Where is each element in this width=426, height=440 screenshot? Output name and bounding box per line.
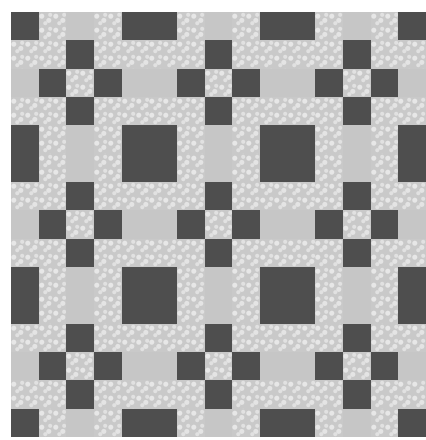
- light-patch: [122, 239, 150, 267]
- dark-patch: [66, 324, 94, 352]
- light-patch: [315, 239, 343, 267]
- light-patch: [260, 69, 288, 97]
- dark-patch: [11, 125, 39, 153]
- dark-patch: [11, 409, 39, 437]
- light-patch: [177, 267, 205, 295]
- light-patch: [94, 97, 122, 125]
- dark-patch: [315, 69, 343, 97]
- dark-patch: [343, 239, 371, 267]
- dark-patch: [205, 182, 233, 210]
- dark-patch: [398, 295, 426, 323]
- light-patch: [343, 352, 371, 380]
- dark-patch: [398, 125, 426, 153]
- light-patch: [66, 409, 94, 437]
- dark-patch: [205, 380, 233, 408]
- light-patch: [11, 239, 39, 267]
- dark-patch: [149, 295, 177, 323]
- light-patch: [149, 97, 177, 125]
- light-patch: [260, 182, 288, 210]
- light-patch: [371, 295, 399, 323]
- light-patch: [66, 210, 94, 238]
- dark-patch: [288, 125, 316, 153]
- dark-patch: [232, 352, 260, 380]
- light-patch: [149, 352, 177, 380]
- light-patch: [39, 239, 67, 267]
- light-patch: [398, 40, 426, 68]
- light-patch: [11, 69, 39, 97]
- dark-patch: [371, 69, 399, 97]
- light-patch: [398, 97, 426, 125]
- light-patch: [260, 324, 288, 352]
- light-patch: [232, 409, 260, 437]
- light-patch: [232, 182, 260, 210]
- dark-patch: [177, 210, 205, 238]
- light-patch: [39, 380, 67, 408]
- light-patch: [177, 40, 205, 68]
- dark-patch: [398, 154, 426, 182]
- light-patch: [66, 352, 94, 380]
- light-patch: [149, 210, 177, 238]
- light-patch: [232, 12, 260, 40]
- light-patch: [122, 380, 150, 408]
- light-patch: [94, 295, 122, 323]
- dark-patch: [343, 40, 371, 68]
- light-patch: [149, 380, 177, 408]
- light-patch: [39, 409, 67, 437]
- dark-patch: [288, 154, 316, 182]
- light-patch: [315, 154, 343, 182]
- dark-patch: [122, 267, 150, 295]
- dark-patch: [260, 267, 288, 295]
- light-patch: [39, 12, 67, 40]
- dark-patch: [149, 267, 177, 295]
- light-patch: [122, 40, 150, 68]
- light-patch: [39, 324, 67, 352]
- light-patch: [232, 324, 260, 352]
- light-patch: [315, 295, 343, 323]
- dark-patch: [66, 40, 94, 68]
- dark-patch: [288, 409, 316, 437]
- light-patch: [398, 380, 426, 408]
- light-patch: [315, 182, 343, 210]
- light-patch: [371, 182, 399, 210]
- light-patch: [177, 409, 205, 437]
- light-patch: [343, 295, 371, 323]
- light-patch: [371, 97, 399, 125]
- light-patch: [260, 380, 288, 408]
- light-patch: [371, 40, 399, 68]
- dark-patch: [177, 352, 205, 380]
- light-patch: [122, 182, 150, 210]
- light-patch: [39, 182, 67, 210]
- dark-patch: [94, 69, 122, 97]
- light-patch: [11, 40, 39, 68]
- dark-patch: [122, 125, 150, 153]
- light-patch: [315, 97, 343, 125]
- light-patch: [11, 380, 39, 408]
- dark-patch: [122, 154, 150, 182]
- dark-patch: [315, 210, 343, 238]
- light-patch: [343, 210, 371, 238]
- light-patch: [149, 324, 177, 352]
- dark-patch: [149, 154, 177, 182]
- light-patch: [232, 267, 260, 295]
- light-patch: [371, 380, 399, 408]
- light-patch: [177, 295, 205, 323]
- light-patch: [343, 154, 371, 182]
- dark-patch: [11, 12, 39, 40]
- dark-patch: [260, 125, 288, 153]
- light-patch: [149, 182, 177, 210]
- dark-patch: [205, 40, 233, 68]
- light-patch: [315, 125, 343, 153]
- light-patch: [39, 40, 67, 68]
- dark-patch: [66, 182, 94, 210]
- dark-patch: [39, 352, 67, 380]
- dark-patch: [39, 69, 67, 97]
- dark-patch: [315, 352, 343, 380]
- light-patch: [94, 239, 122, 267]
- light-patch: [66, 154, 94, 182]
- dark-patch: [260, 295, 288, 323]
- light-patch: [94, 324, 122, 352]
- light-patch: [288, 69, 316, 97]
- light-patch: [66, 267, 94, 295]
- light-patch: [260, 210, 288, 238]
- dark-patch: [205, 324, 233, 352]
